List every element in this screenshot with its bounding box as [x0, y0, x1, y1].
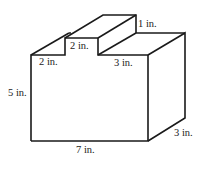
label-depth: 3 in. — [174, 127, 193, 138]
label-length: 7 in. — [76, 144, 95, 155]
right-face — [148, 33, 185, 141]
notch-floor-slant — [98, 33, 136, 55]
stepped-prism-diagram: 1 in. 2 in. 2 in. 3 in. 5 in. 7 in. 3 in… — [0, 0, 208, 170]
label-height: 5 in. — [8, 87, 27, 98]
label-left-step: 2 in. — [39, 56, 58, 67]
raised-block-top — [65, 15, 136, 38]
left-step-slant — [31, 33, 69, 55]
label-top-height: 1 in. — [138, 18, 157, 29]
front-face — [31, 38, 148, 141]
prism-edges — [31, 15, 185, 141]
label-right-step: 3 in. — [114, 57, 133, 68]
label-notch-width: 2 in. — [70, 40, 89, 51]
raised-block-right-slant — [98, 15, 136, 38]
